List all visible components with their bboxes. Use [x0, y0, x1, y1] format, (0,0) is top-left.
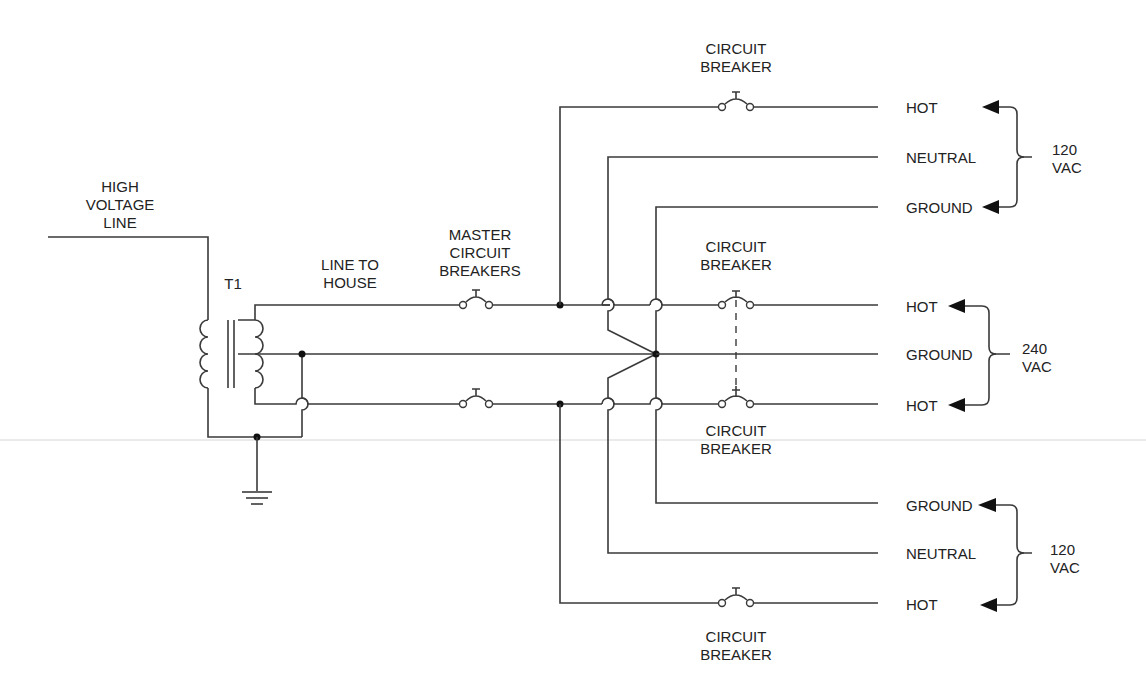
- secondary-bottom-lead: [255, 388, 460, 404]
- terminal-g2-ground: GROUND: [906, 346, 973, 364]
- terminal-g3-neutral: NEUTRAL: [906, 545, 976, 563]
- label-line: 120: [1050, 541, 1080, 559]
- transformer-label: T1: [218, 275, 248, 293]
- terminal-g1-neutral: NEUTRAL: [906, 149, 976, 167]
- label-line: BREAKER: [696, 256, 776, 274]
- breaker-bottom-icon[interactable]: [719, 588, 754, 607]
- breaker-240-lower-icon[interactable]: [719, 386, 754, 408]
- voltage-g1: 120 VAC: [1052, 141, 1082, 177]
- terminal-g1-hot: HOT: [906, 99, 938, 117]
- label-line: HOUSE: [310, 274, 390, 292]
- label-line: CIRCUIT: [696, 422, 776, 440]
- arrow-group3-hot: [980, 553, 1024, 612]
- label-line: CIRCUIT: [430, 244, 530, 262]
- line-to-house-label: LINE TO HOUSE: [310, 256, 390, 292]
- master-breaker-lower-icon[interactable]: [460, 389, 493, 408]
- label-line: HIGH: [80, 178, 160, 196]
- label-line: 120: [1052, 141, 1082, 159]
- terminal-g1-ground: GROUND: [906, 199, 973, 217]
- label-line: BREAKER: [696, 646, 776, 664]
- label-line: 240: [1022, 340, 1052, 358]
- label-line: LINE TO: [310, 256, 390, 274]
- label-line: CIRCUIT: [696, 40, 776, 58]
- arrow-group1-ground: [982, 157, 1024, 214]
- label-line: VAC: [1050, 559, 1080, 577]
- label-line: LINE: [80, 214, 160, 232]
- arrow-group1-hot: [982, 100, 1032, 157]
- label-line: BREAKERS: [430, 262, 530, 280]
- voltage-g2: 240 VAC: [1022, 340, 1052, 376]
- label-line: VAC: [1052, 159, 1082, 177]
- terminal-g2-hot-lower: HOT: [906, 397, 938, 415]
- breaker-top-icon[interactable]: [719, 92, 754, 111]
- terminal-g3-hot: HOT: [906, 596, 938, 614]
- terminal-g3-ground: GROUND: [906, 497, 973, 515]
- breaker-top-label: CIRCUIT BREAKER: [696, 40, 776, 76]
- high-voltage-wire: [48, 237, 208, 320]
- transformer-primary-coil: [200, 320, 208, 388]
- label-line: BREAKER: [696, 440, 776, 458]
- master-breakers-label: MASTER CIRCUIT BREAKERS: [430, 226, 530, 280]
- label-line: VAC: [1022, 358, 1052, 376]
- label-line: CIRCUIT: [696, 238, 776, 256]
- schematic-canvas: [0, 0, 1146, 691]
- breaker-bottom-label: CIRCUIT BREAKER: [696, 628, 776, 664]
- neutral-to-ground-bond: [302, 354, 308, 437]
- breaker-240-lower-label: CIRCUIT BREAKER: [696, 422, 776, 458]
- node-center-tap: [299, 351, 306, 358]
- label-line: VOLTAGE: [80, 196, 160, 214]
- label-line: BREAKER: [696, 58, 776, 76]
- high-voltage-line-label: HIGH VOLTAGE LINE: [80, 178, 160, 232]
- label-line: CIRCUIT: [696, 628, 776, 646]
- label-line: MASTER: [430, 226, 530, 244]
- voltage-g3: 120 VAC: [1050, 541, 1080, 577]
- hot-a-riser: [560, 107, 719, 305]
- master-breaker-upper-icon[interactable]: [460, 290, 493, 309]
- breaker-240-upper-label: CIRCUIT BREAKER: [696, 238, 776, 274]
- secondary-top-lead: [238, 305, 460, 320]
- terminal-g2-hot-upper: HOT: [906, 298, 938, 316]
- arrow-group3-ground: [978, 498, 1032, 553]
- earth-ground-icon: [242, 492, 272, 504]
